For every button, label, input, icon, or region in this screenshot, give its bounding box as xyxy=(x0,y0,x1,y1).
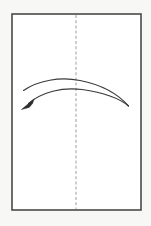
origami-fold-diagram xyxy=(0,0,151,226)
fold-diagram-canvas xyxy=(0,0,151,226)
